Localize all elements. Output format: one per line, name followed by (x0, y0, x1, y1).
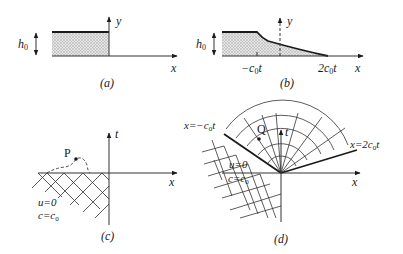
x-axis-label: x (170, 61, 177, 75)
state-u-label: u=0 (229, 158, 248, 170)
point-q-label: Q (257, 122, 266, 136)
y-axis-label: y (286, 14, 293, 28)
line-label-x-minus-c0t: x=−c0t (183, 119, 216, 133)
panel-d: Q t x x=−c0t x=2c0t u=0 c=c0 (d) (183, 100, 380, 246)
panel-a: h0 y x (a) (18, 14, 177, 90)
line-x-2c0t (281, 150, 357, 173)
domain-of-dependence-path (47, 158, 90, 173)
tick-label-2c0t: 2c0t (318, 61, 337, 76)
x-axis-label: x (354, 61, 361, 75)
tick-label-minus-c0t: −c0t (241, 61, 262, 76)
height-label: h0 (18, 37, 28, 52)
state-u-label: u=0 (38, 196, 57, 208)
panel-c: P t x u=0 c=c0 (c) (32, 127, 177, 243)
x-axis-label: x (351, 175, 358, 189)
water-column-shading (52, 32, 109, 56)
panel-b: h0 y x −c0t 2c0t (b) (196, 14, 363, 90)
t-axis-label: t (115, 127, 119, 141)
point-p-marker (74, 157, 78, 161)
panel-caption: (b) (280, 76, 294, 90)
point-p-label: P (64, 146, 71, 160)
t-axis-label: t (285, 125, 289, 139)
state-c-label: c=c0 (38, 209, 59, 223)
point-q-marker (257, 137, 261, 141)
dam-break-figure: h0 y x (a) h0 y x −c0t 2c0t (b) (0, 0, 403, 254)
panel-caption: (c) (101, 229, 114, 243)
x-axis-label: x (168, 175, 175, 189)
panel-caption: (a) (100, 76, 114, 90)
panel-caption: (d) (274, 232, 288, 246)
state-c-label: c=c0 (228, 172, 249, 186)
height-label: h0 (196, 37, 206, 52)
line-label-x-2c0t: x=2c0t (349, 138, 380, 152)
y-axis-label: y (115, 14, 122, 28)
